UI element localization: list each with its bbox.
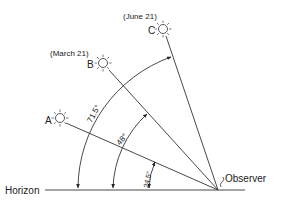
sun-a-letter: A <box>45 115 52 126</box>
sun-angle-diagram: Horizon 71.5° 48° 24.5° A B (March 21) C… <box>0 0 285 205</box>
sun-icon <box>95 55 112 72</box>
sun-c: C (June 21) <box>123 12 172 38</box>
sight-line-b <box>109 70 218 190</box>
sun-b-letter: B <box>87 59 94 70</box>
sun-c-date: (June 21) <box>123 12 157 21</box>
sun-a: A <box>45 110 69 127</box>
observer: Observer <box>220 173 267 187</box>
sun-icon <box>155 21 172 38</box>
angle-label-b: 48° <box>115 132 130 147</box>
sun-b-date: (March 21) <box>50 49 89 58</box>
sun-icon <box>52 110 69 127</box>
angle-label-a: 24.5° <box>142 171 152 189</box>
observer-leader-icon <box>220 177 224 187</box>
observer-label: Observer <box>225 173 267 184</box>
sun-b: B (March 21) <box>50 49 112 72</box>
horizon-label: Horizon <box>5 185 39 196</box>
sight-line-c <box>166 36 218 190</box>
sun-c-letter: C <box>148 25 155 36</box>
sight-line-a <box>66 123 218 190</box>
